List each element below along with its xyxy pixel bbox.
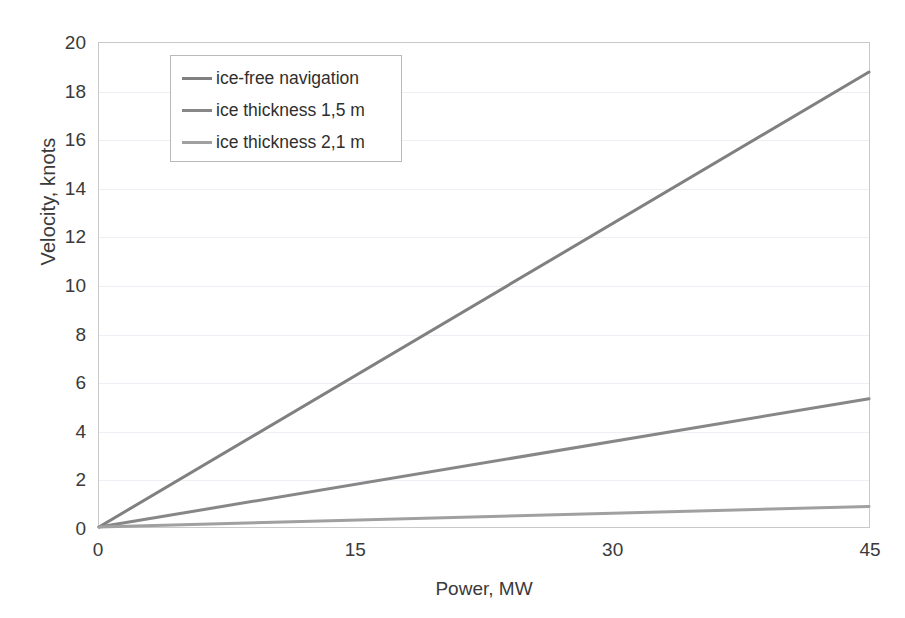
legend-item: ice thickness 2,1 m — [171, 126, 401, 158]
chart-figure: Velocity, knots 02468101214161820 015304… — [0, 0, 905, 618]
legend-line-swatch — [182, 109, 212, 112]
legend-line-swatch — [182, 77, 212, 80]
x-tick-label: 15 — [325, 540, 385, 559]
x-tick-label: 0 — [68, 540, 128, 559]
legend-label: ice-free navigation — [216, 68, 359, 89]
legend-item: ice thickness 1,5 m — [171, 94, 401, 126]
series-line-2 — [99, 399, 869, 527]
series-line-3 — [99, 506, 869, 527]
x-tick-label: 45 — [840, 540, 900, 559]
x-tick-label: 30 — [583, 540, 643, 559]
chart-legend: ice-free navigationice thickness 1,5 mic… — [170, 55, 402, 162]
legend-item: ice-free navigation — [171, 62, 401, 94]
legend-line-swatch — [182, 141, 212, 144]
x-axis-title: Power, MW — [98, 578, 870, 600]
legend-label: ice thickness 1,5 m — [216, 100, 365, 121]
legend-label: ice thickness 2,1 m — [216, 132, 365, 153]
